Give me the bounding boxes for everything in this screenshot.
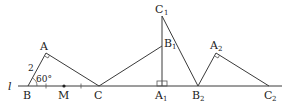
triangle-a2b2c2 (198, 53, 269, 86)
label-c: C (94, 89, 102, 102)
label-a1-sub: 1 (163, 95, 167, 103)
label-b: B (23, 89, 31, 102)
label-a: A (39, 40, 49, 53)
label-m: M (58, 89, 69, 102)
label-side-ab: 2 (28, 63, 34, 73)
right-angle-mark-a (45, 55, 50, 58)
label-angle-b: 60° (36, 74, 52, 84)
point-m (62, 84, 65, 87)
label-c2-sub: 2 (272, 95, 276, 103)
label-c1-sub: 1 (164, 9, 168, 17)
label-b2-sub: 2 (200, 95, 204, 103)
label-b1: B (164, 37, 172, 50)
label-b2: B (192, 89, 200, 102)
geometry-diagram: l A B C M 2 60° C 1 B 1 A 1 A 2 B 2 (0, 0, 295, 104)
label-a2-sub: 2 (218, 45, 222, 53)
right-angle-mark-a2 (215, 55, 220, 58)
triangle-a1b1c1 (99, 16, 198, 86)
label-l: l (8, 80, 12, 93)
label-b1-sub: 1 (172, 43, 176, 51)
label-c1: C (155, 3, 163, 16)
